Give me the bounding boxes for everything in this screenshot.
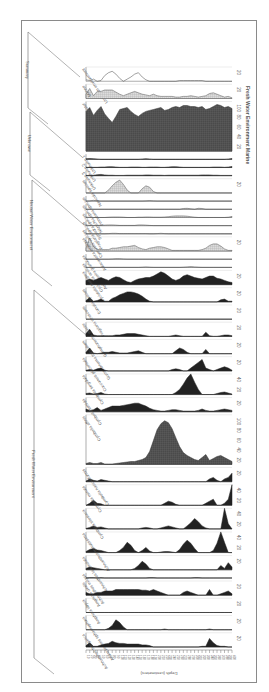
taxon-panel bbox=[86, 508, 232, 529]
taxon-panel bbox=[86, 154, 232, 159]
abundance-area bbox=[86, 167, 232, 168]
scale-tick-label: 20 bbox=[236, 401, 241, 407]
abundance-area bbox=[86, 329, 232, 336]
svg-text:310: 310 bbox=[198, 655, 202, 660]
scale-tick-label: 40 bbox=[236, 134, 241, 140]
svg-text:120: 120 bbox=[127, 655, 131, 660]
abundance-area bbox=[86, 159, 232, 160]
scale-tick-label: 20 bbox=[236, 273, 241, 279]
abundance-area bbox=[86, 360, 232, 371]
svg-text:200: 200 bbox=[157, 655, 161, 660]
svg-text:380: 380 bbox=[225, 655, 229, 660]
scale-tick-label: 20 bbox=[236, 522, 241, 528]
abundance-area bbox=[86, 174, 232, 175]
svg-text:150: 150 bbox=[138, 655, 142, 660]
svg-text:170: 170 bbox=[146, 655, 150, 660]
svg-text:280: 280 bbox=[187, 655, 191, 660]
taxon-panel bbox=[86, 633, 232, 647]
taxon-panel bbox=[86, 212, 232, 217]
svg-text:230: 230 bbox=[168, 655, 172, 660]
scale-tick-label: 20 bbox=[236, 584, 241, 590]
svg-text:360: 360 bbox=[217, 655, 221, 660]
abundance-area bbox=[86, 532, 232, 553]
environment-axis-title: Fresh Water Environment Marine bbox=[245, 86, 251, 164]
abundance-area bbox=[86, 225, 232, 226]
svg-text:50: 50 bbox=[101, 655, 105, 659]
taxon-panel bbox=[86, 467, 232, 481]
svg-text:210: 210 bbox=[161, 655, 165, 660]
abundance-area bbox=[86, 233, 232, 234]
depth-axis-title: Depth (centimeters) bbox=[140, 671, 177, 676]
taxon-panel bbox=[86, 339, 232, 353]
scale-tick-label: 20 bbox=[236, 458, 241, 464]
svg-text:300: 300 bbox=[195, 655, 199, 660]
svg-text:370: 370 bbox=[221, 655, 225, 660]
svg-text:390: 390 bbox=[228, 655, 232, 660]
svg-text:100: 100 bbox=[120, 655, 124, 660]
abundance-area bbox=[86, 473, 232, 482]
taxon-panel bbox=[86, 171, 232, 176]
svg-text:260: 260 bbox=[180, 655, 184, 660]
taxon-panel bbox=[86, 237, 232, 251]
scale-tick-label: 20 bbox=[236, 387, 241, 393]
svg-text:160: 160 bbox=[142, 655, 146, 660]
abundance-area bbox=[86, 348, 232, 354]
scale-tick-label: 100 bbox=[236, 105, 241, 113]
svg-text:90: 90 bbox=[116, 655, 120, 659]
svg-text:350: 350 bbox=[213, 655, 217, 660]
svg-text:190: 190 bbox=[153, 655, 157, 660]
scale-tick-label: 60 bbox=[236, 124, 241, 130]
scale-tick-label: 20 bbox=[236, 144, 241, 150]
group-label: Unknown bbox=[27, 135, 32, 153]
scale-tick-label: 40 bbox=[236, 535, 241, 541]
svg-text:70: 70 bbox=[108, 655, 112, 659]
abundance-area bbox=[86, 216, 232, 218]
scale-tick-label: 100 bbox=[236, 418, 241, 426]
group-label: Neutral Water Environment bbox=[29, 200, 34, 251]
group-brackets: SummaryUnknownNeutral Water EnvironmentF… bbox=[25, 32, 86, 674]
abundance-area bbox=[86, 638, 232, 647]
svg-text:180: 180 bbox=[150, 655, 154, 660]
scale-tick-label: 20 bbox=[236, 291, 241, 297]
taxon-panel bbox=[86, 288, 232, 302]
svg-text:400: 400 bbox=[232, 655, 236, 660]
scale-tick-label: 20 bbox=[236, 498, 241, 504]
scale-tick-label: 40 bbox=[236, 377, 241, 383]
scale-tick-label: 20 bbox=[236, 471, 241, 477]
svg-text:30: 30 bbox=[93, 655, 97, 659]
taxon-panel bbox=[86, 84, 232, 98]
diatom-stratigraphic-chart: Unknown environmentMarineFresh waterUnkn… bbox=[0, 0, 269, 692]
abundance-area bbox=[86, 259, 232, 260]
svg-text:140: 140 bbox=[135, 655, 139, 660]
svg-text:330: 330 bbox=[206, 655, 210, 660]
taxon-panel bbox=[86, 254, 232, 259]
scale-tick-label: 20 bbox=[236, 619, 241, 625]
abundance-area bbox=[86, 200, 232, 201]
scale-tick-label: 20 bbox=[236, 342, 241, 348]
taxon-panel bbox=[86, 581, 232, 595]
scale-tick-label: 20 bbox=[236, 360, 241, 366]
taxon-panel bbox=[86, 305, 232, 319]
scale-tick-label: 20 bbox=[236, 240, 241, 246]
taxon-panel bbox=[86, 204, 232, 209]
abundance-area bbox=[86, 508, 232, 529]
svg-text:60: 60 bbox=[105, 655, 109, 659]
svg-text:320: 320 bbox=[202, 655, 206, 660]
scale-tick-label: 80 bbox=[236, 428, 241, 434]
abundance-area bbox=[86, 421, 232, 465]
svg-text:240: 240 bbox=[172, 655, 176, 660]
scale-tick-label: 20 bbox=[236, 308, 241, 314]
svg-text:20: 20 bbox=[90, 655, 94, 659]
scale-tick-label: 20 bbox=[236, 545, 241, 551]
abundance-area bbox=[86, 208, 232, 209]
abundance-area bbox=[86, 272, 232, 285]
taxon-panel bbox=[86, 162, 232, 167]
taxon-panel bbox=[86, 220, 232, 225]
scale-tick-label: 20 bbox=[236, 601, 241, 607]
taxon-panel bbox=[86, 179, 232, 193]
taxon-panel bbox=[86, 262, 232, 267]
abundance-area bbox=[86, 180, 232, 193]
scale-tick-label: 20 bbox=[236, 87, 241, 93]
taxon-panel bbox=[86, 196, 232, 201]
taxon-panel bbox=[86, 615, 232, 629]
